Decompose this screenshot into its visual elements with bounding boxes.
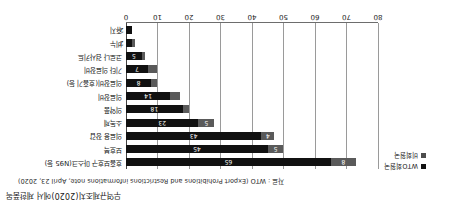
bar-value-label: 45 xyxy=(126,146,268,152)
bar-value-label: 3 xyxy=(161,93,170,99)
stacked-bar: 2 xyxy=(126,26,132,34)
category-axis-labels: 호흡보호구 마스크(N95 등)보호복의료용 장갑소독제의약품의료장비의료장비(… xyxy=(2,23,122,169)
bar-segment-nonwto: 1 xyxy=(142,52,145,60)
bar-row[interactable]: 21 xyxy=(126,36,378,49)
x-tick-50: 50 xyxy=(279,13,288,21)
bar-value-label: 8 xyxy=(331,159,356,165)
stacked-bar: 235 xyxy=(126,119,214,127)
rotated-figure-container: 무역규제조치(2020)에서 제한품목 자료 : WTO (Export Pro… xyxy=(0,0,450,205)
bar-row[interactable]: 658 xyxy=(126,156,378,169)
bar-row[interactable]: 182 xyxy=(126,103,378,116)
stacked-bar: 434 xyxy=(126,132,274,140)
category-label: 비누 xyxy=(110,36,122,49)
bar-segment-nonwto: 2 xyxy=(183,105,189,113)
bar-row[interactable]: 51 xyxy=(126,50,378,63)
legend-swatch-icon-nonwto xyxy=(421,154,426,159)
bar-segment-wto: 23 xyxy=(126,119,198,127)
x-axis-baseline xyxy=(126,22,378,23)
bar-row[interactable]: 143 xyxy=(126,89,378,102)
legend-swatch-icon-wto xyxy=(421,165,426,170)
category-label: 의료용 장갑 xyxy=(90,129,122,142)
category-label: 코로나 검사키트 xyxy=(78,50,122,63)
bar-segment-nonwto: 4 xyxy=(261,132,274,140)
bar-value-label: 1 xyxy=(133,53,142,59)
stacked-bar: 143 xyxy=(126,92,180,100)
bar-value-label: 5 xyxy=(268,146,284,152)
bar-segment-wto: 45 xyxy=(126,145,268,153)
category-label: 휴지 xyxy=(110,23,122,36)
stacked-bar: 658 xyxy=(126,158,356,166)
bar-row[interactable]: 235 xyxy=(126,116,378,129)
legend-label-nonwto: 비회원국 xyxy=(394,151,418,161)
bar-segment-nonwto: 5 xyxy=(198,119,214,127)
category-label: 의약품 xyxy=(104,103,122,116)
chart-source-note: 자료 : WTO (Export Prohibitions and Restri… xyxy=(18,177,284,187)
x-axis-tick-labels: 01020304050607080 xyxy=(126,7,378,21)
bar-segment-wto: 43 xyxy=(126,132,261,140)
stacked-bar: 51 xyxy=(126,52,145,60)
x-tick-10: 10 xyxy=(153,13,162,21)
bar-value-label: 23 xyxy=(126,120,198,126)
stacked-bar: 21 xyxy=(126,39,135,47)
category-label: 의료장비 xyxy=(98,89,122,102)
chart-legend: WTO회원국 비회원국 xyxy=(384,151,426,172)
x-tick-60: 60 xyxy=(311,13,320,21)
bar-segment-nonwto: 3 xyxy=(148,66,157,74)
category-label: 호흡보호구 마스크(N95 등) xyxy=(45,156,122,169)
legend-label-wto: WTO회원국 xyxy=(384,162,418,172)
bar-row[interactable]: 73 xyxy=(126,63,378,76)
bar-row[interactable]: 434 xyxy=(126,129,378,142)
legend-item-nonwto[interactable]: 비회원국 xyxy=(384,151,426,161)
bar-value-label: 4 xyxy=(261,133,274,139)
x-tick-20: 20 xyxy=(185,13,194,21)
bar-value-label: 43 xyxy=(126,133,261,139)
bar-segment-nonwto: 1 xyxy=(132,39,135,47)
bar-row[interactable]: 455 xyxy=(126,142,378,155)
bar-value-label: 2 xyxy=(174,106,183,112)
plot-area: 658455434235182143827351212 xyxy=(126,23,378,169)
bar-segment-nonwto: 2 xyxy=(151,79,157,87)
bar-value-label: 2 xyxy=(142,80,151,86)
bar-segment-nonwto: 8 xyxy=(331,158,356,166)
bar-value-label: 65 xyxy=(126,159,331,165)
legend-item-wto[interactable]: WTO회원국 xyxy=(384,162,426,172)
category-label: 보호복 xyxy=(104,142,122,155)
bar-row[interactable]: 2 xyxy=(126,23,378,36)
x-tick-0: 0 xyxy=(124,13,128,21)
bar-value-label: 5 xyxy=(198,120,214,126)
category-label: 의료장비(호흡기 등) xyxy=(67,76,122,89)
x-tick-40: 40 xyxy=(248,13,257,21)
category-label: 소독제 xyxy=(104,116,122,129)
bar-value-label: 3 xyxy=(139,67,148,73)
bar-segment-wto: 2 xyxy=(126,26,132,34)
gridline-80 xyxy=(378,23,379,169)
chart-title: 무역규제조치(2020)에서 제한품목 xyxy=(6,191,121,202)
x-tick-70: 70 xyxy=(342,13,351,21)
stacked-bar: 182 xyxy=(126,105,189,113)
x-tick-30: 30 xyxy=(216,13,225,21)
bar-segment-nonwto: 5 xyxy=(268,145,284,153)
stacked-bar: 82 xyxy=(126,79,157,87)
stacked-bar: 73 xyxy=(126,66,157,74)
stacked-bar: 455 xyxy=(126,145,284,153)
bar-value-label: 1 xyxy=(123,40,132,46)
category-label: 기타 의료장비 xyxy=(84,63,122,76)
chart-figure: 무역규제조치(2020)에서 제한품목 자료 : WTO (Export Pro… xyxy=(0,0,450,205)
bar-segment-nonwto: 3 xyxy=(170,92,179,100)
bar-segment-wto: 65 xyxy=(126,158,331,166)
x-tick-80: 80 xyxy=(374,13,383,21)
bar-row[interactable]: 82 xyxy=(126,76,378,89)
